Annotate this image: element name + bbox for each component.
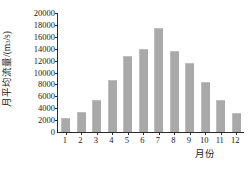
bar	[232, 113, 241, 132]
bar	[123, 56, 132, 132]
y-axis-tick-mark	[55, 108, 58, 109]
y-axis-tick-mark	[55, 13, 58, 14]
y-axis-tick-mark	[55, 61, 58, 62]
y-axis-title-suffix: /s)	[3, 31, 13, 41]
y-axis-tick-label: 2000	[18, 116, 55, 125]
x-axis-tick-label: 12	[223, 136, 247, 145]
bar	[154, 28, 163, 132]
y-axis-tick-mark	[55, 120, 58, 121]
y-axis-tick-mark	[55, 96, 58, 97]
bars-layer	[58, 13, 244, 132]
bar	[61, 118, 70, 132]
y-axis-tick-mark	[55, 37, 58, 38]
plot-area	[57, 13, 244, 133]
bar	[139, 49, 148, 132]
y-axis-tick-mark	[55, 49, 58, 50]
y-axis-tick-label: 12000	[18, 56, 55, 65]
bar-chart: 月平均流量/(m3/s) 020004000600080001000012000…	[0, 0, 251, 170]
bar	[108, 80, 117, 132]
y-axis-tick-label: 16000	[18, 33, 55, 42]
bar	[92, 100, 101, 132]
y-axis-title-prefix: 月平均流量/(m	[3, 44, 13, 107]
y-axis-tick-mark	[55, 84, 58, 85]
x-axis-title: 月份	[170, 150, 240, 160]
y-axis-tick-label: 6000	[18, 92, 55, 101]
bar	[201, 82, 210, 132]
bar	[216, 100, 225, 132]
y-axis-tick-label: 20000	[18, 9, 55, 18]
bar	[170, 51, 179, 132]
y-axis-tick-label: 14000	[18, 44, 55, 53]
y-axis-tick-label: 0	[18, 128, 55, 137]
bar	[185, 63, 194, 132]
y-axis-tick-label: 4000	[18, 104, 55, 113]
x-axis-tick-labels: 123456789101112	[57, 136, 243, 148]
y-axis-title: 月平均流量/(m3/s)	[1, 3, 15, 135]
y-axis-tick-label: 18000	[18, 21, 55, 30]
y-axis-tick-mark	[55, 73, 58, 74]
y-axis-tick-labels: 0200040006000800010000120001400016000180…	[18, 0, 55, 170]
y-axis-tick-label: 8000	[18, 80, 55, 89]
bar	[77, 112, 86, 132]
y-axis-tick-label: 10000	[18, 68, 55, 77]
y-axis-tick-mark	[55, 25, 58, 26]
